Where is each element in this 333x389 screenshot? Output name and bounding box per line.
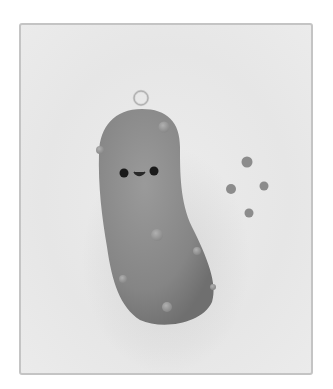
- pickle-illustration: [21, 25, 313, 375]
- jump-ring-icon: [134, 91, 148, 105]
- loose-clay-dots: [226, 157, 269, 218]
- pickle-body: [99, 109, 214, 325]
- photo-frame: [19, 23, 313, 375]
- left-eye: [120, 169, 129, 178]
- right-eye: [150, 167, 159, 176]
